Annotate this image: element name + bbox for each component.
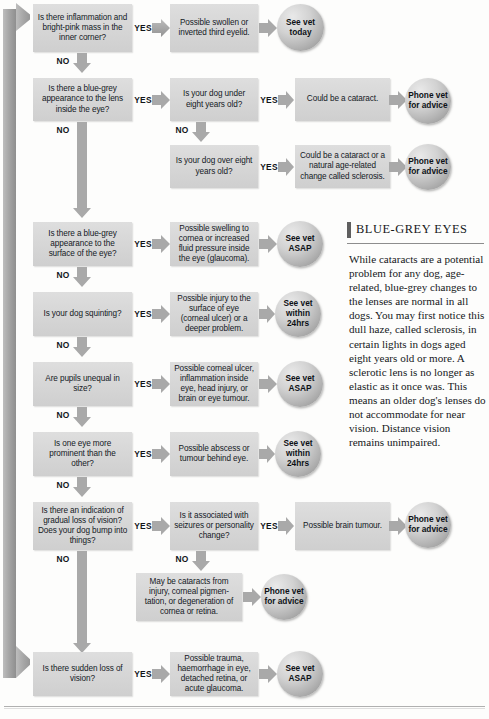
- no-label-q1: NO: [53, 54, 73, 68]
- result-box-r8: Possible brain tumour.: [295, 502, 390, 550]
- question-text: Are pupils unequal in size?: [37, 374, 128, 394]
- arrow-right-icon: [259, 665, 277, 683]
- action-text: See vet ASAP: [277, 664, 323, 684]
- yes-label-q7: YES: [133, 518, 153, 534]
- arrow-right-icon: [152, 305, 170, 323]
- arrow-down-icon: [73, 407, 91, 427]
- action-badge-a10: See vet ASAP: [277, 651, 323, 697]
- arrow-right-icon: [278, 158, 294, 176]
- action-badge-a3: Phone vet for advice: [405, 144, 451, 190]
- left-spine: [0, 0, 30, 700]
- action-text: See vet within 24hrs: [275, 299, 321, 328]
- result-text: Possible abscess or tumour behind eye.: [174, 444, 254, 464]
- result-text: May be cataracts from injury, corneal pi…: [140, 577, 238, 618]
- yes-label-q5: YES: [133, 376, 153, 392]
- arrow-down-icon: [73, 53, 91, 73]
- action-text: Phone vet for advice: [405, 91, 451, 111]
- question-box-q1: Is there inflammation and bright-pink ma…: [33, 4, 132, 52]
- question-box-q7: Is there an indication of gradual loss o…: [33, 502, 132, 550]
- question-box-q2a: Is your dog under eight years old?: [170, 78, 258, 121]
- flowchart-page: Is there inflammation and bright-pink ma…: [0, 0, 489, 719]
- result-text: Possible trauma, haemorrhage in eye, det…: [174, 654, 254, 695]
- result-box-r7: Possible abscess or tumour behind eye.: [170, 432, 258, 476]
- question-text: Is it associated with seizures or person…: [174, 511, 254, 542]
- arrow-right-icon: [278, 91, 294, 109]
- yes-label-q2: YES: [133, 92, 153, 108]
- question-box-q4: Is your dog squinting?: [33, 292, 132, 336]
- no-label-q2a: NO: [172, 123, 192, 137]
- action-text: See vet ASAP: [277, 374, 323, 394]
- yes-label-q1: YES: [133, 20, 153, 36]
- arrow-down-icon: [192, 551, 210, 571]
- no-label-q6: NO: [53, 478, 73, 492]
- action-badge-a7: See vet within 24hrs: [275, 431, 321, 477]
- yes-label-q2b: YES: [259, 159, 279, 175]
- question-box-q7a: Is it associated with seizures or person…: [170, 502, 258, 550]
- arrow-right-icon: [259, 445, 275, 463]
- result-text: Could be a cataract.: [307, 94, 378, 104]
- arrow-right-icon: [152, 517, 170, 535]
- action-badge-a5: See vet within 24hrs: [275, 291, 321, 337]
- arrow-down-icon: [73, 551, 91, 653]
- question-text: Is there an indication of gradual loss o…: [37, 506, 128, 547]
- action-badge-a2: Phone vet for advice: [405, 78, 451, 124]
- result-box-r10: Possible trauma, haemorrhage in eye, det…: [170, 652, 258, 696]
- question-box-q2b: Is your dog over eight years old?: [170, 145, 258, 188]
- arrow-right-icon: [259, 375, 277, 393]
- arrow-right-icon: [152, 375, 170, 393]
- action-badge-a6: See vet ASAP: [277, 361, 323, 407]
- arrow-right-icon: [278, 517, 294, 535]
- action-text: Phone vet for advice: [261, 587, 307, 607]
- question-box-q6: Is one eye more prominent than the other…: [33, 432, 132, 476]
- yes-label-q3: YES: [133, 236, 153, 252]
- action-text: See vet within 24hrs: [275, 439, 321, 468]
- article-accent-bar: [347, 222, 351, 238]
- arrow-right-icon: [152, 19, 170, 37]
- question-text: Is one eye more prominent than the other…: [37, 439, 128, 470]
- question-text: Is there a blue-grey appearance to the s…: [37, 229, 128, 260]
- arrow-down-icon: [73, 267, 91, 287]
- article-body: While cataracts are a potential problem …: [349, 252, 486, 449]
- yes-label-q7a: YES: [259, 518, 279, 534]
- page-divider-shadow: [4, 708, 485, 709]
- question-text: Is your dog over eight years old?: [174, 156, 254, 176]
- no-label-q5: NO: [53, 408, 73, 422]
- arrow-down-icon: [73, 337, 91, 357]
- result-box-r4: Possible swelling to cornea or increased…: [170, 222, 258, 266]
- article-title: BLUE-GREY EYES: [356, 222, 468, 237]
- arrow-down-icon: [192, 122, 210, 142]
- result-box-r9: May be cataracts from injury, corneal pi…: [136, 573, 242, 621]
- yes-label-q8: YES: [133, 666, 153, 682]
- arrow-down-icon: [73, 477, 91, 497]
- no-label-q3: NO: [53, 268, 73, 282]
- action-badge-a9: Phone vet for advice: [261, 574, 307, 620]
- arrow-right-icon: [152, 665, 170, 683]
- result-text: Possible swollen or inverted third eyeli…: [174, 18, 254, 38]
- question-box-q3: Is there a blue-grey appearance to the s…: [33, 222, 132, 266]
- question-text: Is your dog squinting?: [44, 309, 122, 319]
- result-box-r1: Possible swollen or inverted third eyeli…: [170, 4, 258, 52]
- arrow-right-icon: [152, 235, 170, 253]
- question-text: Is there inflammation and bright-pink ma…: [37, 13, 128, 44]
- question-text: Is there a blue-grey appearance to the l…: [37, 84, 128, 115]
- action-text: Phone vet for advice: [405, 157, 451, 177]
- question-box-q8: Is there sudden loss of vision?: [33, 652, 132, 696]
- result-text: Possible swelling to cornea or increased…: [174, 224, 254, 265]
- result-box-r3: Could be a cataract or a natural age-rel…: [295, 145, 390, 188]
- action-badge-a8: Phone vet for advice: [405, 502, 451, 548]
- result-box-r5: Possible injury to the surface of eye (c…: [170, 292, 258, 336]
- action-badge-a1: See vet today: [277, 4, 324, 51]
- page-divider: [4, 706, 485, 707]
- no-label-q2: NO: [53, 123, 73, 137]
- article-divider: [347, 243, 484, 244]
- no-label-q7: NO: [53, 552, 73, 566]
- action-badge-a4: See vet ASAP: [277, 221, 323, 267]
- arrow-right-icon: [152, 445, 170, 463]
- question-text: Is your dog under eight years old?: [174, 89, 254, 109]
- yes-label-q4: YES: [133, 306, 153, 322]
- no-label-q7a: NO: [172, 552, 192, 566]
- yes-label-q6: YES: [133, 446, 153, 462]
- result-text: Could be a cataract or a natural age-rel…: [299, 151, 386, 182]
- arrow-right-icon: [259, 305, 275, 323]
- arrow-right-icon: [259, 235, 277, 253]
